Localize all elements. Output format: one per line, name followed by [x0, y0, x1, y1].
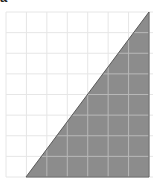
- grid-triangle-diagram: [0, 0, 159, 180]
